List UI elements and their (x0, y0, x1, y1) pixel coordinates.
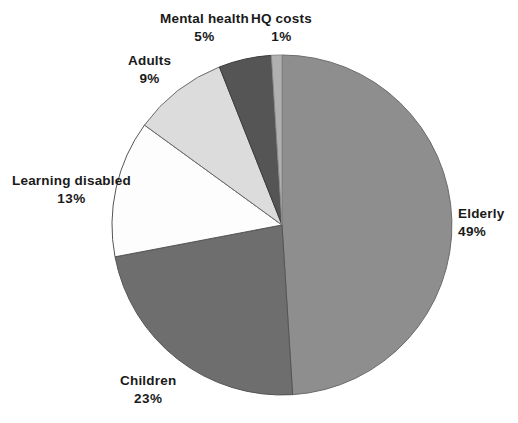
slice-label-adults-value: 9% (128, 70, 171, 88)
slice-label-mental-health-name: Mental health (160, 10, 249, 28)
slice-label-elderly-value: 49% (458, 223, 504, 241)
slice-label-children-name: Children (120, 372, 176, 390)
pie-chart-svg (0, 0, 518, 423)
slice-label-adults-name: Adults (128, 52, 171, 70)
slice-label-learning-disabled-name: Learning disabled (12, 172, 131, 190)
slice-label-mental-health: Mental health 5% (160, 10, 249, 46)
slice-label-children: Children 23% (120, 372, 176, 408)
slice-label-elderly-name: Elderly (458, 205, 504, 223)
slice-label-learning-disabled: Learning disabled 13% (12, 172, 131, 208)
slice-label-hq-costs: HQ costs 1% (251, 10, 312, 46)
pie-slice-group (112, 55, 452, 395)
slice-label-hq-costs-value: 1% (251, 28, 312, 46)
slice-label-adults: Adults 9% (128, 52, 171, 88)
slice-label-elderly: Elderly 49% (458, 205, 504, 241)
slice-label-learning-disabled-value: 13% (12, 190, 131, 208)
pie-slice-elderly[interactable] (282, 55, 452, 395)
pie-chart: Elderly 49% Children 23% Learning disabl… (0, 0, 518, 423)
slice-label-children-value: 23% (120, 390, 176, 408)
slice-label-hq-costs-name: HQ costs (251, 10, 312, 28)
slice-label-mental-health-value: 5% (160, 28, 249, 46)
